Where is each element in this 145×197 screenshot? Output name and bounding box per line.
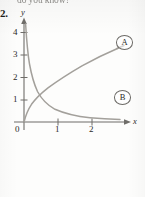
curve-a-path [24, 48, 118, 122]
origin-label: 0 [15, 124, 20, 134]
y-tick-label-4: 4 [13, 27, 18, 37]
x-tick-label-2: 2 [89, 124, 94, 134]
x-axis-label: x [133, 116, 137, 126]
y-tick-label-2: 2 [13, 72, 18, 82]
figure-page: do you know? 2. 0 1 2 1 2 3 4 x [0, 0, 145, 197]
y-axis-label: y [21, 7, 25, 17]
x-axis-arrowhead [124, 119, 131, 125]
curve-label-a: A [116, 35, 133, 50]
y-axis-arrowhead [21, 18, 27, 25]
y-tick-label-1: 1 [13, 94, 18, 104]
x-tick-label-1: 1 [55, 124, 60, 134]
curve-label-b: B [114, 90, 131, 105]
y-tick-label-3: 3 [13, 49, 18, 59]
